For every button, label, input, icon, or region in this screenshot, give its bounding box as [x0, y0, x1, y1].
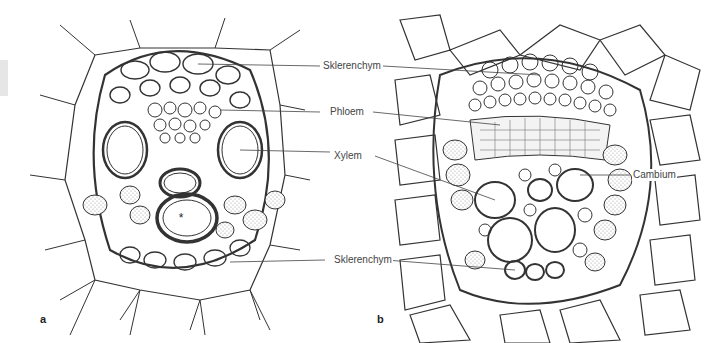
- panel-b-leader-lines: [373, 66, 630, 270]
- label-cambium: Cambium: [632, 169, 677, 181]
- panel-letter-a: a: [40, 313, 46, 325]
- label-xylem: Xylem: [333, 150, 363, 162]
- vascular-bundle-illustration: *: [0, 0, 705, 343]
- asterisk-marker: *: [179, 211, 184, 225]
- label-phloem: Phloem: [329, 106, 365, 118]
- panel-a-drawing: [30, 18, 310, 335]
- label-sklerenchym-top: Sklerenchym: [322, 60, 382, 72]
- panel-letter-b: b: [377, 313, 384, 325]
- label-sklerenchym-bottom: Sklerenchym: [333, 254, 393, 266]
